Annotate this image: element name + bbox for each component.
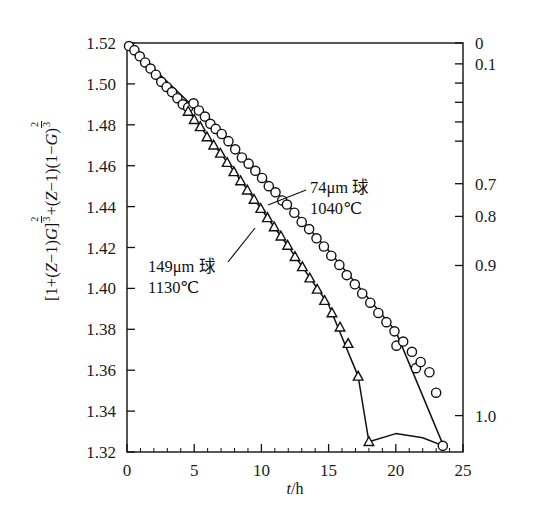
x-tick-label-10: 10 [253, 461, 270, 480]
data-point-circle [407, 347, 416, 356]
data-point-circle [416, 357, 425, 366]
data-point-circle [374, 308, 383, 317]
chart-background [0, 0, 541, 525]
y-right-tick-label-0: 0 [475, 34, 484, 53]
data-point-circle [282, 200, 291, 209]
x-axis-label: t/h [287, 480, 304, 497]
y-left-tick-label-1.40: 1.40 [86, 279, 116, 298]
data-point-circle [399, 337, 408, 346]
x-tick-label-25: 25 [455, 461, 472, 480]
y-right-tick-label-0.8: 0.8 [475, 207, 496, 226]
data-point-circle [335, 260, 344, 269]
x-tick-label-5: 5 [190, 461, 199, 480]
y-left-tick-label-1.48: 1.48 [86, 116, 116, 135]
figure-container: 0510152025 1.521.501.481.461.441.421.401… [0, 0, 541, 525]
data-point-circle [290, 208, 299, 217]
y-left-tick-label-1.52: 1.52 [86, 34, 116, 53]
y-left-tick-label-1.32: 1.32 [86, 443, 116, 462]
y-left-tick-label-1.42: 1.42 [86, 239, 116, 258]
data-point-circle [382, 318, 391, 327]
y-left-tick-label-1.36: 1.36 [86, 361, 116, 380]
y-right-tick-label-0.9: 0.9 [475, 256, 496, 275]
data-point-circle [297, 217, 306, 226]
y-right-tick-label-1.0: 1.0 [475, 407, 496, 426]
data-point-circle [390, 327, 399, 336]
annotation-74um-line1: 74μm 球 [310, 178, 369, 197]
data-point-circle [312, 234, 321, 243]
data-point-circle [342, 271, 351, 280]
y-left-tick-label-1.46: 1.46 [86, 157, 116, 176]
y-left-tick-label-1.50: 1.50 [86, 75, 116, 94]
data-point-circle [358, 289, 367, 298]
x-tick-label-0: 0 [123, 461, 132, 480]
data-point-circle [350, 280, 359, 289]
data-point-circle [231, 145, 240, 154]
x-axis-label-unit: /h [291, 480, 303, 497]
data-point-circle [305, 224, 314, 233]
data-point-circle [366, 298, 375, 307]
y-right-tick-label-0.1: 0.1 [475, 55, 496, 74]
y-right-tick-label-0.7: 0.7 [475, 175, 497, 194]
x-tick-label-20: 20 [387, 461, 404, 480]
x-tick-label-15: 15 [320, 461, 337, 480]
data-point-circle [425, 368, 434, 377]
annotation-149um-line1: 149μm 球 [148, 257, 216, 276]
data-point-circle [224, 137, 233, 146]
data-point-circle [271, 188, 280, 197]
data-point-circle [257, 173, 266, 182]
y-left-tick-label-1.44: 1.44 [86, 198, 116, 217]
chart-canvas: 0510152025 1.521.501.481.461.441.421.401… [0, 0, 541, 525]
data-point-circle [432, 388, 441, 397]
data-point-circle [438, 441, 447, 450]
y-left-tick-label-1.34: 1.34 [86, 402, 116, 421]
y-left-tick-label-1.38: 1.38 [86, 320, 116, 339]
annotation-74um-line2: 1040℃ [310, 199, 362, 218]
data-point-circle [327, 251, 336, 260]
y-axis-label-text: [1+(Z−1)G]23+(Z−1)(1−G)23 [42, 121, 61, 301]
y-axis-label: [1+(Z−1)G]23+(Z−1)(1−G)23 [32, 61, 62, 361]
data-point-circle [319, 242, 328, 251]
annotation-149um-line2: 1130℃ [148, 278, 199, 297]
